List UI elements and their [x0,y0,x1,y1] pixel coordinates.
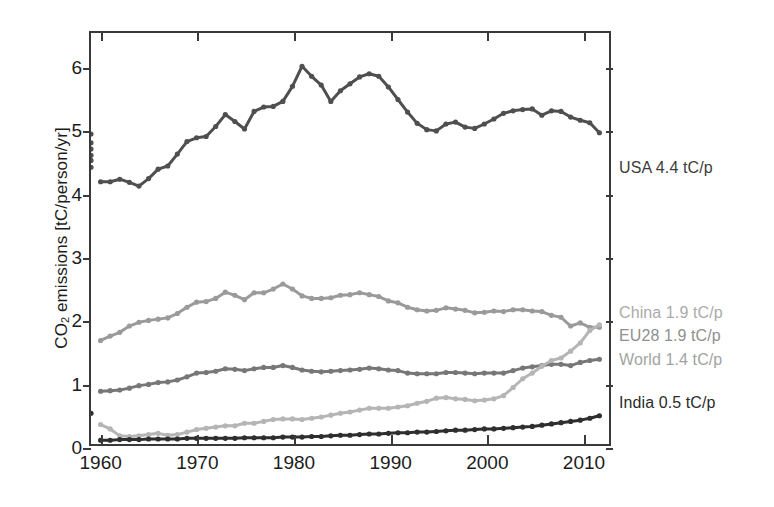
data-point [357,290,362,295]
data-point [251,421,256,426]
data-point [472,427,477,432]
data-point [156,317,161,322]
data-point [578,418,583,423]
data-point [251,290,256,295]
data-point [98,389,103,394]
data-point [395,97,400,102]
series-line [101,359,600,391]
data-point [280,416,285,421]
y-axis-tick-label: 1 [71,374,82,396]
y-axis-tick-right [606,195,613,197]
legend-label-china: China 1.9 tC/p [619,304,723,322]
data-point [453,307,458,312]
data-point [91,147,94,152]
x-axis-tick-label: 1990 [370,452,412,474]
data-point [491,308,496,313]
data-point [395,300,400,305]
data-point [434,128,439,133]
data-point [91,411,94,416]
data-point [510,108,515,113]
data-point [376,366,381,371]
data-point [146,176,151,181]
data-point [482,121,487,126]
data-point [290,416,295,421]
data-point [271,417,276,422]
y-axis-title-pre: CO [52,323,71,349]
data-point [232,423,237,428]
data-point [232,293,237,298]
data-point [175,152,180,157]
data-point [491,396,496,401]
data-point [357,432,362,437]
data-point [482,398,487,403]
data-point [127,437,132,442]
data-point [213,124,218,129]
data-point [338,368,343,373]
y-axis-tick-label: 5 [71,120,82,142]
y-axis-tick [83,448,91,450]
data-point [204,370,209,375]
data-point [597,413,602,418]
data-point [91,158,94,163]
data-point [223,423,228,428]
x-axis-tick-top [487,33,489,41]
data-point [549,421,554,426]
x-axis-tick [391,435,393,444]
data-point [319,296,324,301]
legend-label-world: World 1.4 tC/p [619,351,722,369]
data-point [194,300,199,305]
legend-label-india: India 0.5 tC/p [619,394,716,412]
data-point [127,386,132,391]
data-point [443,305,448,310]
data-point [578,320,583,325]
data-point [520,365,525,370]
data-point [299,435,304,440]
data-point [127,323,132,328]
data-point [520,107,525,112]
data-point [194,427,199,432]
data-point [223,290,228,295]
data-point [463,308,468,313]
data-point [395,368,400,373]
data-point [271,365,276,370]
data-point [434,308,439,313]
data-point [501,393,506,398]
data-point [328,295,333,300]
data-point [165,163,170,168]
data-point [520,424,525,429]
data-point [357,408,362,413]
data-point [520,376,525,381]
data-point [491,426,496,431]
data-point [463,397,468,402]
data-point [194,371,199,376]
data-point [309,74,314,79]
data-point [549,108,554,113]
data-point [117,177,122,182]
series-usa [91,64,602,189]
data-point [367,292,372,297]
data-point [290,84,295,89]
data-point [299,417,304,422]
data-point [568,115,573,120]
data-point [558,355,563,360]
data-point [405,403,410,408]
data-point [472,126,477,131]
data-point [98,338,103,343]
data-point [424,371,429,376]
data-point [223,112,228,117]
data-point [357,367,362,372]
data-point [261,419,266,424]
data-point [204,426,209,431]
data-point [376,74,381,79]
y-axis-tick [83,321,91,323]
x-axis-tick [487,435,489,444]
data-point [558,362,563,367]
data-point [482,310,487,315]
data-point [347,292,352,297]
data-point [261,435,266,440]
x-axis-tick [294,435,296,444]
data-point [578,360,583,365]
data-point [232,119,237,124]
y-axis-tick-right [606,68,613,70]
data-point [213,424,218,429]
